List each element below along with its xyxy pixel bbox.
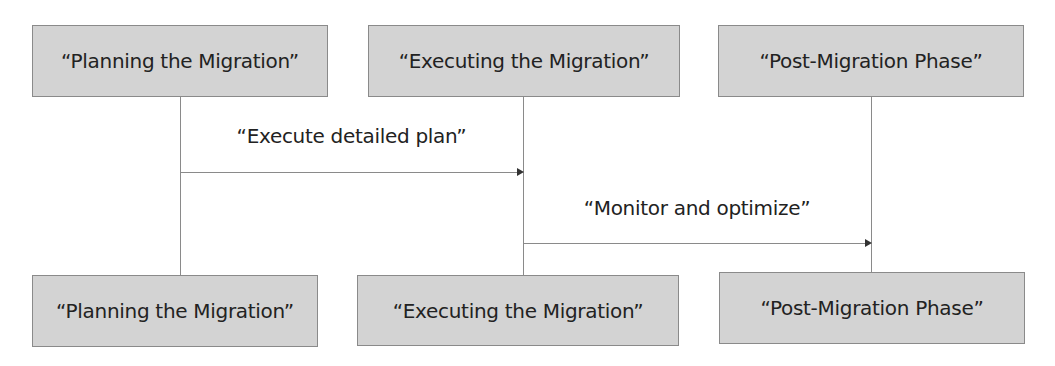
actor-label: “Post-Migration Phase” (761, 296, 984, 320)
message-label-execute-plan: “Execute detailed plan” (180, 124, 523, 148)
actor-post-migration-top: “Post-Migration Phase” (718, 25, 1024, 97)
message-arrow-execute-plan (180, 172, 517, 173)
arrowhead-icon (517, 168, 524, 176)
actor-executing-top: “Executing the Migration” (368, 25, 680, 97)
actor-label: “Planning the Migration” (61, 49, 299, 73)
actor-label: “Post-Migration Phase” (760, 49, 983, 73)
actor-label: “Planning the Migration” (56, 299, 294, 323)
lifeline-post-migration (871, 97, 872, 275)
actor-post-migration-bottom: “Post-Migration Phase” (719, 272, 1025, 344)
lifeline-executing (523, 97, 524, 275)
message-arrow-monitor-optimize (523, 243, 865, 244)
arrowhead-icon (865, 239, 872, 247)
actor-planning-bottom: “Planning the Migration” (32, 275, 318, 347)
actor-planning-top: “Planning the Migration” (32, 25, 328, 97)
message-label-monitor-optimize: “Monitor and optimize” (523, 196, 871, 220)
actor-executing-bottom: “Executing the Migration” (357, 275, 679, 346)
actor-label: “Executing the Migration” (399, 49, 650, 73)
actor-label: “Executing the Migration” (393, 299, 644, 323)
